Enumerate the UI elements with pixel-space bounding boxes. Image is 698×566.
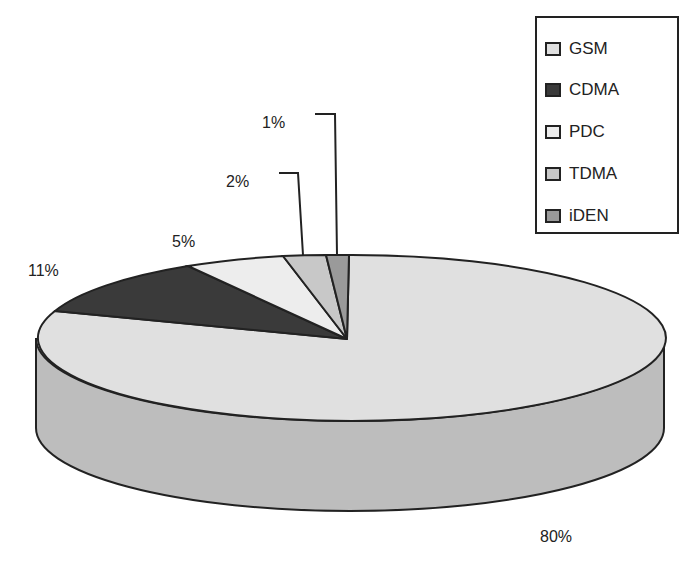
legend-swatch-iden <box>545 209 561 223</box>
legend-swatch-gsm <box>545 42 561 56</box>
legend-item-tdma: TDMA <box>545 163 617 185</box>
label-iden-pct: 1% <box>262 114 285 132</box>
label-tdma-pct: 2% <box>226 173 249 191</box>
label-gsm-pct: 80% <box>540 528 572 546</box>
legend: GSM CDMA PDC TDMA iDEN <box>535 16 679 234</box>
legend-item-gsm: GSM <box>545 38 608 60</box>
legend-item-pdc: PDC <box>545 121 605 143</box>
leader-line-tdma <box>279 173 303 255</box>
legend-label-cdma: CDMA <box>569 80 619 100</box>
legend-label-iden: iDEN <box>569 206 609 226</box>
label-cdma-pct: 11% <box>28 262 59 280</box>
legend-label-tdma: TDMA <box>569 164 617 184</box>
legend-swatch-cdma <box>545 83 561 97</box>
legend-item-iden: iDEN <box>545 205 609 227</box>
legend-item-cdma: CDMA <box>545 79 619 101</box>
leader-line-iden <box>315 114 337 255</box>
legend-label-pdc: PDC <box>569 122 605 142</box>
legend-swatch-pdc <box>545 125 561 139</box>
legend-swatch-tdma <box>545 167 561 181</box>
label-pdc-pct: 5% <box>172 233 195 251</box>
legend-label-gsm: GSM <box>569 39 608 59</box>
